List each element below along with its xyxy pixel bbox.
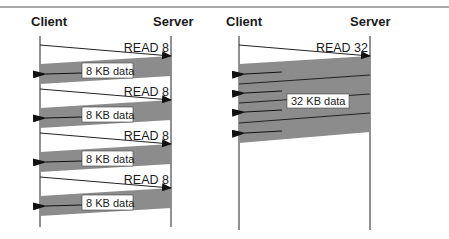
read-request-label: READ 8 — [124, 129, 169, 143]
right-diagram-32kb-read: READ 32 32 KB data — [239, 36, 370, 230]
left-cycle-2: READ 8 8 KB data — [40, 85, 171, 128]
left-server-label: Server — [153, 14, 193, 29]
read-request-label: READ 8 — [124, 173, 169, 187]
diagram-canvas: Client Server Client Server READ 8 8 KB … — [0, 0, 449, 239]
left-client-label: Client — [31, 14, 68, 29]
right-server-label: Server — [350, 14, 390, 29]
read-size-comparison-diagram: Client Server Client Server READ 8 8 KB … — [0, 0, 449, 239]
response-label: 8 KB data — [86, 65, 135, 77]
left-cycle-4: READ 8 8 KB data — [40, 173, 171, 216]
left-diagram-8kb-reads: READ 8 8 KB data READ 8 8 KB data READ 8… — [40, 36, 171, 227]
read-request-label: READ 8 — [124, 85, 169, 99]
left-cycle-1: READ 8 8 KB data — [40, 41, 171, 84]
read-request-label: READ 32 — [316, 41, 368, 55]
read-request-label: READ 8 — [124, 41, 169, 55]
left-cycle-3: READ 8 8 KB data — [40, 129, 171, 172]
response-label: 32 KB data — [291, 95, 346, 107]
response-label: 8 KB data — [86, 197, 135, 209]
right-client-label: Client — [226, 14, 263, 29]
response-label: 8 KB data — [86, 109, 135, 121]
response-label: 8 KB data — [86, 153, 135, 165]
